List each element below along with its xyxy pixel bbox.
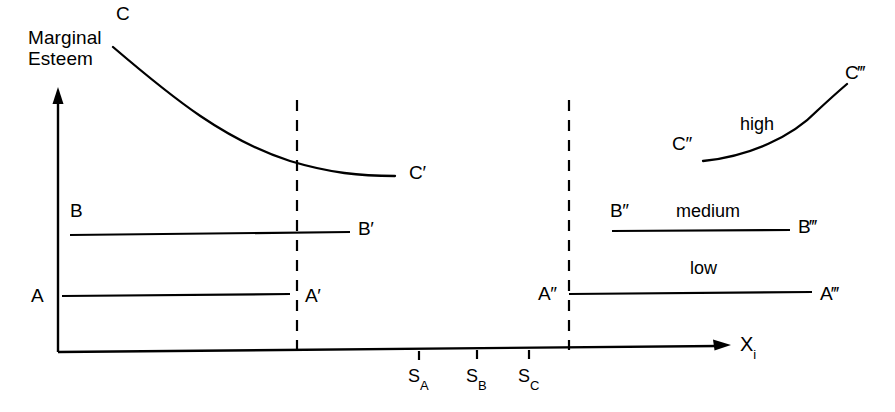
annotation-medium: medium [676, 201, 740, 221]
y-axis-arrowhead [53, 87, 64, 104]
label-b-prime: B′ [358, 218, 374, 239]
tick-label-sb: SB [466, 366, 487, 390]
x-axis-title-subscript: i [753, 347, 756, 362]
marginal-esteem-diagram: Marginal Esteem Xi C C′ B B′ A A′ C‴ C″ … [0, 0, 895, 412]
tick-label-sb-subscript: B [478, 378, 487, 393]
diagram-canvas [0, 0, 895, 412]
label-c-tprime: C‴ [845, 62, 865, 83]
y-axis-title: Marginal Esteem [28, 27, 102, 70]
curve-c-dprime-to-c-tprime [703, 84, 847, 161]
tick-label-sc: SC [518, 366, 539, 390]
tick-label-sc-subscript: C [530, 378, 539, 393]
label-a-tprime: A‴ [820, 283, 839, 304]
line-b-dprime-to-b-tprime [612, 230, 790, 231]
x-axis-arrowhead [713, 340, 731, 351]
label-b-dprime: B″ [610, 200, 629, 221]
line-a-dprime-to-a-tprime [569, 292, 812, 294]
tick-label-sa: SA [408, 366, 429, 390]
tick-label-sb-base: S [466, 366, 478, 386]
x-axis-line [58, 346, 718, 352]
x-axis-title-base: X [740, 333, 753, 355]
tick-label-sc-base: S [518, 366, 530, 386]
y-axis-title-line2: Esteem [28, 48, 102, 69]
line-a-to-a-prime [62, 294, 290, 296]
label-c: C [116, 3, 130, 24]
curve-c-to-c-prime [113, 47, 395, 176]
annotation-high: high [740, 114, 774, 134]
x-axis-title: Xi [740, 333, 756, 360]
tick-label-sa-base: S [408, 366, 420, 386]
label-b-tprime: B‴ [798, 216, 817, 237]
annotation-low: low [690, 258, 717, 278]
label-a-dprime: A″ [538, 283, 557, 304]
tick-label-sa-subscript: A [420, 378, 429, 393]
label-b: B [70, 200, 83, 221]
y-axis-title-line1: Marginal [28, 27, 102, 48]
line-b-to-b-prime [70, 232, 350, 235]
label-a: A [31, 285, 44, 306]
label-a-prime: A′ [305, 285, 321, 306]
label-c-dprime: C″ [672, 133, 692, 154]
label-c-prime: C′ [409, 162, 426, 183]
